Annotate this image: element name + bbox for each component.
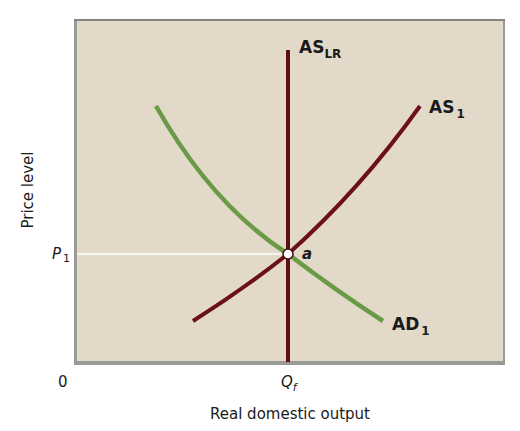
equilibrium-label: a: [302, 245, 312, 263]
chart: ASLR AS1 AD1 a P1 0 Qf Real domestic out…: [0, 0, 520, 431]
equilibrium-point: [283, 249, 293, 259]
y-tick-p1: P1: [52, 245, 70, 265]
x-tick-qf: Qf: [281, 373, 299, 394]
x-axis-title: Real domestic output: [210, 405, 370, 423]
x-tick-origin: 0: [58, 373, 68, 391]
y-axis-title: Price level: [19, 151, 37, 228]
